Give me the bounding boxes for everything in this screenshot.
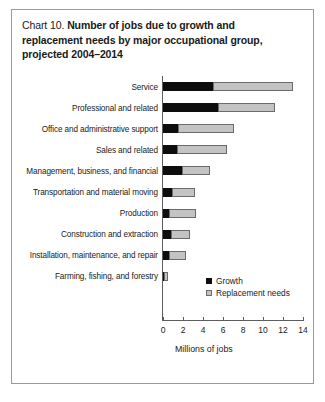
x-axis-tick-label: 14: [293, 325, 313, 335]
bar-segment-replacement: [177, 145, 227, 154]
bar-row: [0, 209, 325, 218]
legend-label: Replacement needs: [216, 288, 290, 298]
bar-row: [0, 145, 325, 154]
bar-segment-replacement: [169, 209, 196, 218]
chart-screenshot: Chart 10. Number of jobs due to growth a…: [0, 0, 325, 402]
legend-item: Growth: [206, 276, 243, 286]
x-axis-line: [162, 320, 304, 321]
bar-segment-replacement: [182, 166, 210, 175]
bar-row: [0, 124, 325, 133]
x-axis-tick-label: 10: [253, 325, 273, 335]
x-axis-tick-label: 2: [173, 325, 193, 335]
legend-item: Replacement needs: [206, 288, 290, 298]
bar-segment-replacement: [213, 82, 293, 91]
bar-row: [0, 166, 325, 175]
x-axis-tick-label: 12: [273, 325, 293, 335]
legend-swatch-growth: [206, 278, 212, 284]
legend-label: Growth: [216, 276, 243, 286]
bar-segment-growth: [163, 124, 178, 133]
x-axis-tick: [223, 317, 224, 320]
x-axis-title: Millions of jobs: [175, 344, 233, 354]
bar-row: [0, 230, 325, 239]
bar-row: [0, 272, 325, 281]
bar-segment-growth: [163, 166, 182, 175]
x-axis-tick: [243, 317, 244, 320]
x-axis-tick: [263, 317, 264, 320]
x-axis-tick: [303, 317, 304, 320]
y-axis-line: [162, 76, 163, 320]
bar-row: [0, 251, 325, 260]
legend-swatch-replacement: [206, 290, 212, 296]
bar-segment-replacement: [178, 124, 234, 133]
bar-segment-replacement: [218, 103, 275, 112]
x-axis-tick-label: 0: [153, 325, 173, 335]
bar-segment-growth: [163, 103, 218, 112]
bar-segment-growth: [163, 230, 171, 239]
bar-row: [0, 82, 325, 91]
plot-area: 02468101214ServiceProfessional and relat…: [0, 0, 325, 402]
x-axis-tick: [163, 317, 164, 320]
bar-segment-growth: [163, 82, 213, 91]
bar-segment-growth: [163, 145, 177, 154]
bar-segment-replacement: [172, 188, 195, 197]
x-axis-tick-label: 4: [193, 325, 213, 335]
bar-row: [0, 103, 325, 112]
x-axis-tick-label: 6: [213, 325, 233, 335]
x-axis-tick: [203, 317, 204, 320]
bar-segment-replacement: [171, 230, 190, 239]
bar-segment-replacement: [169, 251, 186, 260]
bar-segment-growth: [163, 188, 172, 197]
bar-segment-replacement: [164, 272, 168, 281]
x-axis-tick: [283, 317, 284, 320]
bar-row: [0, 188, 325, 197]
x-axis-tick: [183, 317, 184, 320]
x-axis-tick-label: 8: [233, 325, 253, 335]
